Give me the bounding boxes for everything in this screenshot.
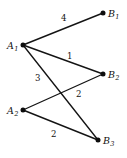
graph-node-dot-b2 <box>101 72 106 77</box>
graph-node-label-b1: B1 <box>108 9 119 19</box>
edge-weight-label-a2-b2: 2 <box>76 90 81 99</box>
node-label-subscript: 1 <box>14 45 18 53</box>
node-label-subscript: 2 <box>115 74 119 82</box>
graph-node-label-b3: B3 <box>103 136 114 146</box>
edge-weight-label-a1-b1: 4 <box>61 14 66 23</box>
edge-weight-label-a1-b3: 3 <box>35 74 40 83</box>
graph-node-dot-b3 <box>96 138 101 143</box>
node-dots-group <box>21 11 106 143</box>
graph-node-label-a2: A2 <box>7 106 18 116</box>
edge-weight-label-a2-b3: 2 <box>51 130 56 139</box>
graph-node-dot-b1 <box>101 11 106 16</box>
node-label-base: B <box>108 69 115 80</box>
graph-node-label-b2: B2 <box>108 70 119 80</box>
node-label-subscript: 3 <box>110 140 114 148</box>
graph-node-label-a1: A1 <box>7 41 18 51</box>
node-label-base: B <box>108 8 115 19</box>
node-label-base: A <box>7 105 14 116</box>
graph-node-dot-a1 <box>21 43 26 48</box>
bipartite-graph-diagram: A1A2B1B2B3 41322 <box>0 0 127 158</box>
node-label-base: B <box>103 135 110 146</box>
node-label-subscript: 2 <box>14 110 18 118</box>
node-label-subscript: 1 <box>115 13 119 21</box>
node-label-base: A <box>7 40 14 51</box>
graph-node-dot-a2 <box>21 108 26 113</box>
edge-weight-label-a1-b2: 1 <box>67 52 72 61</box>
